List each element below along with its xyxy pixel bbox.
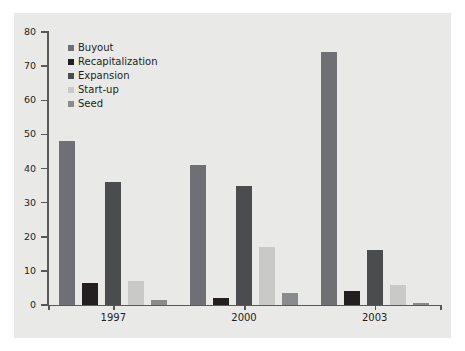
- bar-start-up-2000[interactable]: [259, 247, 275, 305]
- legend-swatch-icon: [68, 45, 74, 51]
- bar-buyout-2003[interactable]: [321, 52, 337, 305]
- y-tick-label: 50: [24, 130, 36, 140]
- x-axis-start-tick: [48, 305, 50, 310]
- bar-expansion-2003[interactable]: [367, 250, 383, 305]
- bar-seed-2003[interactable]: [413, 303, 429, 305]
- bar-recapitalization-2000[interactable]: [213, 298, 229, 305]
- bar-seed-1997[interactable]: [151, 300, 167, 305]
- legend-item-buyout[interactable]: Buyout: [68, 41, 158, 54]
- y-tick-label: 80: [24, 27, 36, 37]
- y-tick-label: 30: [24, 198, 36, 208]
- legend-label: Recapitalization: [78, 57, 158, 67]
- y-tick: 0: [41, 304, 47, 306]
- y-tick: 30: [41, 202, 47, 204]
- bar-start-up-2003[interactable]: [390, 285, 406, 305]
- legend-item-expansion[interactable]: Expansion: [68, 69, 158, 82]
- y-tick: 20: [41, 236, 47, 238]
- legend-label: Expansion: [78, 71, 130, 81]
- legend-label: Seed: [78, 99, 103, 109]
- y-tick-label: 20: [24, 232, 36, 242]
- chart-figure: 01020304050607080 199720002003 BuyoutRec…: [0, 0, 465, 351]
- bar-start-up-1997[interactable]: [128, 281, 144, 305]
- y-tick: 60: [41, 100, 47, 102]
- y-tick-label: 10: [24, 266, 36, 276]
- y-tick: 10: [41, 270, 47, 272]
- legend-label: Buyout: [78, 43, 114, 53]
- bar-recapitalization-1997[interactable]: [82, 283, 98, 305]
- bar-expansion-1997[interactable]: [105, 182, 121, 305]
- chart-legend: BuyoutRecapitalizationExpansionStart-upS…: [68, 41, 158, 110]
- x-axis-end-tick: [440, 305, 442, 310]
- legend-swatch-icon: [68, 73, 74, 79]
- x-tick: [375, 305, 377, 310]
- x-tick: [113, 305, 115, 310]
- bar-buyout-1997[interactable]: [59, 141, 75, 305]
- y-tick-label: 40: [24, 164, 36, 174]
- x-tick-label: 1997: [101, 313, 126, 323]
- x-tick-label: 2003: [362, 313, 387, 323]
- y-tick: 40: [41, 168, 47, 170]
- bar-group: [179, 32, 310, 305]
- bar-expansion-2000[interactable]: [236, 186, 252, 305]
- bar-buyout-2000[interactable]: [190, 165, 206, 305]
- legend-swatch-icon: [68, 101, 74, 107]
- x-tick-label: 2000: [231, 313, 256, 323]
- y-tick-label: 60: [24, 96, 36, 106]
- x-tick: [244, 305, 246, 310]
- y-tick: 50: [41, 134, 47, 136]
- legend-item-recapitalization[interactable]: Recapitalization: [68, 55, 158, 68]
- bar-group: [309, 32, 440, 305]
- legend-swatch-icon: [68, 87, 74, 93]
- bar-recapitalization-2003[interactable]: [344, 291, 360, 305]
- y-tick: 70: [41, 65, 47, 67]
- bar-seed-2000[interactable]: [282, 293, 298, 305]
- legend-swatch-icon: [68, 59, 74, 65]
- legend-item-start-up[interactable]: Start-up: [68, 83, 158, 96]
- y-tick-label: 0: [30, 300, 36, 310]
- legend-item-seed[interactable]: Seed: [68, 97, 158, 110]
- y-tick: 80: [41, 31, 47, 33]
- legend-label: Start-up: [78, 85, 119, 95]
- y-tick-label: 70: [24, 61, 36, 71]
